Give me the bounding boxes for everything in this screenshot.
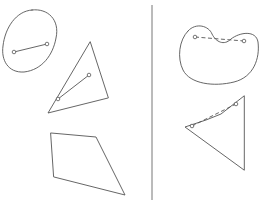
convex-triangle [48, 42, 108, 113]
convex-blob-group [3, 10, 57, 72]
convex-quadrilateral-group [51, 133, 125, 195]
triangle-segment-endpoint-2 [87, 73, 91, 77]
dart-segment-endpoint-1 [190, 124, 194, 128]
kidney-dashed-segment [195, 37, 244, 41]
convex-quadrilateral [51, 133, 125, 195]
kidney-segment-endpoint-1 [193, 35, 197, 39]
triangle-segment-endpoint-1 [56, 97, 60, 101]
dart-dashed-segment [192, 104, 236, 126]
blob-segment-endpoint-2 [45, 42, 49, 46]
blob-segment-endpoint-1 [12, 50, 16, 54]
kidney-segment-endpoint-2 [242, 39, 246, 43]
convexity-diagram [0, 0, 259, 206]
blob-segment [14, 44, 47, 52]
convex-blob [3, 10, 57, 72]
nonconvex-dart-group [185, 96, 244, 170]
dart-segment-endpoint-2 [234, 102, 238, 106]
triangle-segment [58, 75, 89, 99]
nonconvex-kidney-group [180, 26, 259, 84]
convex-sets-panel [3, 10, 125, 195]
nonconvex-kidney [180, 26, 259, 84]
nonconvex-sets-panel [180, 26, 259, 170]
convex-triangle-group [48, 42, 108, 113]
nonconvex-dart [185, 96, 244, 170]
